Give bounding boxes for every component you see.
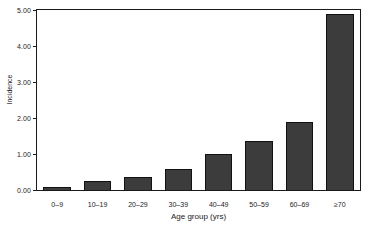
bar-6 bbox=[286, 122, 313, 190]
x-tick-label-2: 20–29 bbox=[128, 201, 147, 208]
y-axis-title: Incidence bbox=[6, 55, 13, 125]
chart-screenshot: 0.00 1.00 2.00 3.00 4.00 5.00 Incidence bbox=[0, 0, 369, 234]
x-tick-label-7: ≥70 bbox=[334, 201, 346, 208]
y-tick-label-4: 4.00 bbox=[17, 43, 33, 50]
bar-slot bbox=[37, 10, 77, 190]
bar-7 bbox=[326, 14, 353, 190]
y-tick-label-1: 1.00 bbox=[17, 151, 33, 158]
x-tick-label-3: 30–39 bbox=[169, 201, 188, 208]
x-axis: 0–9 10–19 20–29 30–39 40–49 50–59 60–69 … bbox=[37, 193, 360, 211]
bar-3 bbox=[165, 169, 192, 190]
bar-slot bbox=[158, 10, 198, 190]
x-tick-label-1: 10–19 bbox=[88, 201, 107, 208]
x-tick-slot: ≥70 bbox=[320, 193, 360, 211]
bar-1 bbox=[84, 181, 111, 190]
x-tick-label-6: 60–69 bbox=[290, 201, 309, 208]
bar-2 bbox=[124, 177, 151, 190]
x-tick-slot: 40–49 bbox=[199, 193, 239, 211]
y-tick-label-2: 2.00 bbox=[17, 115, 33, 122]
bar-slot bbox=[118, 10, 158, 190]
x-tick-slot: 10–19 bbox=[77, 193, 117, 211]
x-tick-slot: 50–59 bbox=[239, 193, 279, 211]
y-tick-label-3: 3.00 bbox=[17, 79, 33, 86]
x-tick-slot: 60–69 bbox=[279, 193, 319, 211]
y-tick-label-0: 0.00 bbox=[17, 187, 33, 194]
bar-slot bbox=[239, 10, 279, 190]
x-tick-label-0: 0–9 bbox=[51, 201, 63, 208]
x-axis-title: Age group (yrs) bbox=[37, 212, 360, 221]
x-tick-label-4: 40–49 bbox=[209, 201, 228, 208]
bar-slot bbox=[77, 10, 117, 190]
bar-slot bbox=[320, 10, 360, 190]
y-tick-label-5: 5.00 bbox=[17, 7, 33, 14]
x-tick-label-5: 50–59 bbox=[249, 201, 268, 208]
x-tick-slot: 30–39 bbox=[158, 193, 198, 211]
bar-slot bbox=[199, 10, 239, 190]
bar-series bbox=[37, 10, 360, 190]
x-tick-slot: 20–29 bbox=[118, 193, 158, 211]
bar-4 bbox=[205, 154, 232, 190]
bar-0 bbox=[43, 187, 70, 190]
bar-5 bbox=[245, 141, 272, 190]
bar-slot bbox=[279, 10, 319, 190]
x-tick-slot: 0–9 bbox=[37, 193, 77, 211]
